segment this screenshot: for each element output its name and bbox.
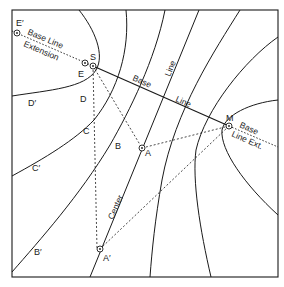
point-e-prime-marker bbox=[14, 30, 20, 36]
label-b: B bbox=[115, 141, 121, 151]
curve-right-1 bbox=[150, 10, 240, 277]
label-d: D bbox=[80, 94, 87, 104]
label-e: E bbox=[78, 69, 84, 79]
dashed-a-m bbox=[142, 126, 229, 148]
baseline bbox=[93, 66, 229, 126]
label-e-prime: E′ bbox=[16, 18, 24, 28]
dashed-s-aprime bbox=[93, 66, 97, 249]
station-s-marker bbox=[90, 63, 96, 69]
point-e-marker bbox=[82, 60, 88, 66]
label-center: Center bbox=[106, 193, 126, 221]
station-m-marker bbox=[226, 123, 232, 129]
label-m: M bbox=[226, 113, 234, 123]
center-line bbox=[90, 10, 199, 277]
label-b-prime: B′ bbox=[34, 247, 42, 257]
label-c-prime: C′ bbox=[32, 163, 40, 173]
label-a: A bbox=[145, 148, 151, 158]
point-a-prime-marker bbox=[97, 246, 103, 252]
label-c: C bbox=[83, 126, 90, 136]
label-baseline-line-vertical: Line bbox=[163, 59, 178, 78]
label-s: S bbox=[90, 52, 96, 62]
curve-right-2 bbox=[195, 37, 278, 277]
label-d-prime: D′ bbox=[28, 98, 36, 108]
hyperbolic-lattice-diagram: E′ E S M A A′ D D′ C C′ B B′ Base Line E… bbox=[0, 0, 284, 287]
label-a-prime: A′ bbox=[103, 253, 111, 263]
